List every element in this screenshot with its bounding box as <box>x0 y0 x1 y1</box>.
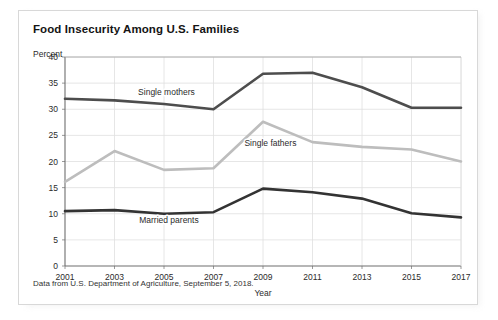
y-axis-tick-label: 30 <box>49 104 59 114</box>
series-label: Single fathers <box>244 138 296 148</box>
series-label: Single mothers <box>138 87 195 97</box>
y-axis-tick-label: 20 <box>49 157 59 167</box>
y-axis-tick-label: 25 <box>49 130 59 140</box>
x-axis-tick-label: 2013 <box>353 272 372 282</box>
x-axis-tick-label: 2015 <box>402 272 421 282</box>
y-axis-tick-label: 15 <box>49 183 59 193</box>
y-axis-tick-label: 10 <box>49 209 59 219</box>
y-axis-tick-label: 35 <box>49 78 59 88</box>
chart-plot-area: 0510152025303540200120032005200720092011… <box>19 11 479 306</box>
x-axis-tick-label: 2017 <box>452 272 471 282</box>
screenshot-root: Food Insecurity Among U.S. Families Perc… <box>0 0 498 320</box>
y-axis-tick-label: 40 <box>49 52 59 62</box>
x-axis-tick-label: 2009 <box>254 272 273 282</box>
source-footnote: Data from U.S. Department of Agriculture… <box>33 279 254 288</box>
line-chart: 0510152025303540200120032005200720092011… <box>19 11 479 306</box>
y-axis-tick-label: 0 <box>53 261 58 271</box>
chart-card: Food Insecurity Among U.S. Families Perc… <box>18 10 478 305</box>
x-axis-tick-label: 2011 <box>303 272 322 282</box>
series-label: Married parents <box>139 215 199 225</box>
y-axis-tick-label: 5 <box>53 235 58 245</box>
x-axis-title: Year <box>254 288 271 298</box>
